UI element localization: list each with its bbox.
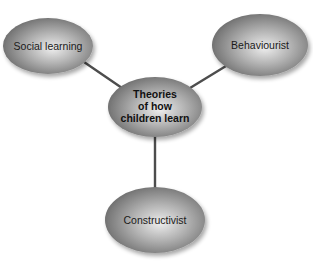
center-label-line-1: Theories bbox=[133, 88, 177, 100]
node-label-behaviourist: Behaviourist bbox=[231, 39, 289, 51]
node-center: Theories of how children learn bbox=[108, 77, 202, 137]
connector-behaviourist bbox=[190, 66, 226, 88]
node-label-social-learning: Social learning bbox=[14, 40, 83, 52]
concept-map-diagram: Social learning Behaviourist Theories of… bbox=[0, 0, 313, 268]
node-social-learning: Social learning bbox=[3, 18, 93, 74]
center-label-line-3: children learn bbox=[121, 112, 190, 124]
connector-social-learning bbox=[84, 62, 122, 88]
node-constructivist: Constructivist bbox=[105, 187, 205, 253]
center-label-line-2: of how bbox=[138, 100, 173, 112]
node-behaviourist: Behaviourist bbox=[212, 14, 308, 76]
node-label-constructivist: Constructivist bbox=[123, 214, 186, 226]
